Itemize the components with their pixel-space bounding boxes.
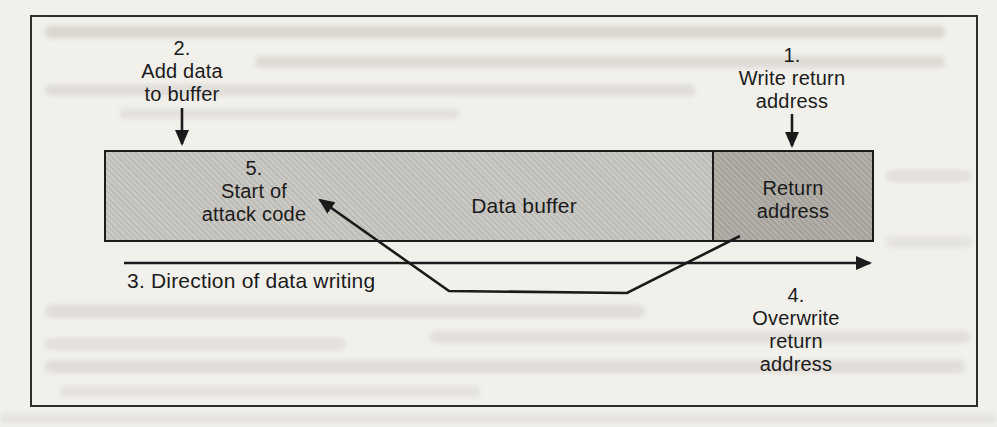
label-step1-write-return-address: 1. Write return address [710, 44, 874, 113]
return-address-box: Return address [712, 152, 872, 240]
label-step2-add-data-to-buffer: 2. Add data to buffer [102, 37, 262, 106]
label-step5-start-of-attack-code: 5. Start of attack code [152, 157, 356, 226]
data-buffer-label: Data buffer [438, 194, 610, 217]
label-step3-direction-of-data-writing: 3. Direction of data writing [127, 269, 375, 292]
label-step4-overwrite-return-address: 4. Overwrite return address [714, 284, 878, 376]
return-address-label: Return address [757, 169, 830, 223]
figure-canvas: Return address 5. Start of attack code D… [0, 0, 997, 427]
ghost-text-streak [0, 414, 997, 423]
